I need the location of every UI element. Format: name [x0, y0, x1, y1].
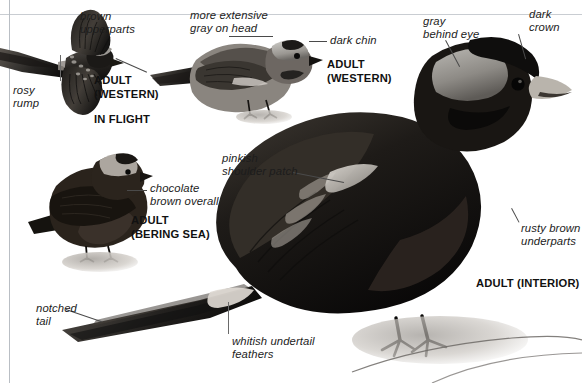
callout-chocolate-brown: chocolate brown overall	[150, 182, 219, 207]
callout-pinkish-shoulder: pinkish shoulder patch	[222, 152, 298, 177]
label-adult-interior: ADULT (INTERIOR)	[476, 277, 580, 291]
leader-dark-chin	[309, 41, 327, 42]
leader-rosy-rump	[60, 55, 61, 81]
label-in-flight: IN FLIGHT	[94, 113, 150, 127]
leader-more-extensive-gray	[229, 36, 273, 37]
callout-brown-upperparts: brown upperparts	[80, 10, 135, 35]
callout-dark-crown: dark crown	[529, 8, 560, 33]
bird-illustrations	[0, 0, 582, 383]
leader-pinkish-shoulder	[293, 172, 344, 183]
callout-notched-tail: notched tail	[36, 302, 77, 327]
label-adult-bering-sea: ADULT (BERING SEA)	[131, 214, 210, 241]
label-adult-western-in-flight: ADULT (WESTERN)	[94, 74, 159, 101]
callout-dark-chin: dark chin	[330, 34, 377, 47]
callout-gray-behind-eye: gray behind eye	[423, 15, 479, 40]
callout-whitish-undertail: whitish undertail feathers	[232, 335, 315, 360]
field-guide-plate: brown upperparts rosy rump more extensiv…	[0, 0, 582, 383]
leader-whitish-undertail	[228, 302, 229, 334]
leader-brown-upperparts	[116, 58, 147, 73]
page-rule-vertical	[9, 0, 10, 383]
leader-rusty-brown	[511, 208, 519, 223]
leader-chocolate-brown	[127, 190, 147, 191]
callout-rosy-rump: rosy rump	[13, 84, 39, 109]
callout-rusty-brown: rusty brown underparts	[521, 222, 581, 247]
leader-dark-crown	[518, 34, 526, 59]
label-adult-western-standing: ADULT (WESTERN)	[327, 58, 392, 85]
callout-more-extensive-gray: more extensive gray on head	[190, 9, 268, 34]
leader-gray-behind-eye	[445, 40, 460, 67]
